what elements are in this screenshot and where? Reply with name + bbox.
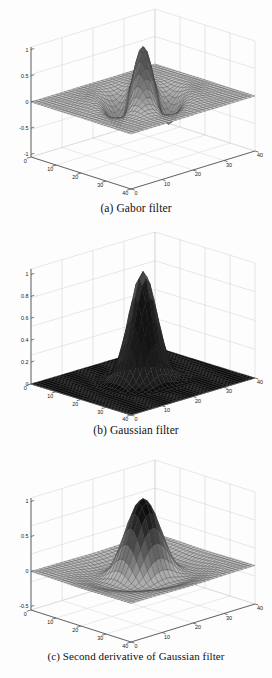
svg-text:0.5: 0.5 (21, 533, 29, 539)
svg-text:30: 30 (226, 615, 232, 621)
svg-text:0: 0 (135, 190, 138, 196)
svg-text:10: 10 (164, 181, 170, 187)
figure-caption-a: (a) Gabor filter (0, 202, 272, 215)
svg-text:1: 1 (26, 47, 29, 53)
svg-text:0.6: 0.6 (21, 315, 29, 321)
surface-plot-gabor-canvas: -1-0.500.51403020100010203040 (0, 2, 272, 202)
figure-gaussian-filter: 00.20.40.60.81403020100010203040 (b) Gau… (0, 232, 272, 452)
svg-text:0.4: 0.4 (21, 337, 29, 343)
svg-text:0: 0 (24, 385, 27, 391)
svg-text:30: 30 (97, 409, 103, 415)
svg-text:0: 0 (135, 643, 138, 649)
svg-text:20: 20 (195, 171, 201, 177)
figure-second-derivative-gaussian-filter: -0.500.51403020100010203040 (c) Second d… (0, 452, 272, 678)
surface-plot-gaussian-canvas: 00.20.40.60.81403020100010203040 (0, 232, 272, 424)
svg-text:1: 1 (26, 271, 29, 277)
svg-text:-0.5: -0.5 (19, 125, 28, 131)
svg-text:10: 10 (164, 407, 170, 413)
svg-text:40: 40 (122, 416, 128, 422)
svg-text:30: 30 (97, 182, 103, 188)
svg-text:0.2: 0.2 (21, 359, 29, 365)
svg-text:20: 20 (72, 401, 78, 407)
surface-plot-second-derivative-canvas: -0.500.51403020100010203040 (0, 452, 272, 650)
svg-text:0.5: 0.5 (21, 73, 29, 79)
svg-text:10: 10 (47, 166, 53, 172)
svg-text:-0.5: -0.5 (19, 603, 28, 609)
svg-text:30: 30 (97, 635, 103, 641)
figure-gabor-filter: -1-0.500.51403020100010203040 (a) Gabor … (0, 2, 272, 230)
svg-text:20: 20 (195, 398, 201, 404)
figure-caption-c: (c) Second derivative of Gaussian filter (0, 650, 272, 663)
svg-text:-1: -1 (24, 151, 29, 157)
svg-text:40: 40 (122, 643, 128, 649)
svg-text:20: 20 (72, 174, 78, 180)
figure-caption-b: (b) Gaussian filter (0, 424, 272, 437)
svg-text:0: 0 (135, 416, 138, 422)
svg-text:40: 40 (257, 605, 263, 611)
svg-text:0: 0 (24, 158, 27, 164)
surface-plot-gaussian: 00.20.40.60.81403020100010203040 (0, 232, 272, 424)
svg-text:0: 0 (24, 611, 27, 617)
svg-text:10: 10 (164, 634, 170, 640)
svg-text:0: 0 (26, 99, 29, 105)
svg-text:20: 20 (72, 627, 78, 633)
svg-text:40: 40 (257, 152, 263, 158)
svg-text:1: 1 (26, 498, 29, 504)
svg-text:0: 0 (26, 568, 29, 574)
svg-text:30: 30 (226, 162, 232, 168)
svg-text:30: 30 (226, 388, 232, 394)
svg-text:20: 20 (195, 624, 201, 630)
svg-text:10: 10 (47, 619, 53, 625)
surface-plot-gabor: -1-0.500.51403020100010203040 (0, 2, 272, 202)
svg-text:10: 10 (47, 393, 53, 399)
svg-text:0.8: 0.8 (21, 293, 29, 299)
figure-page: -1-0.500.51403020100010203040 (a) Gabor … (0, 0, 272, 678)
svg-text:40: 40 (257, 379, 263, 385)
surface-plot-second-derivative: -0.500.51403020100010203040 (0, 452, 272, 650)
svg-text:40: 40 (122, 190, 128, 196)
